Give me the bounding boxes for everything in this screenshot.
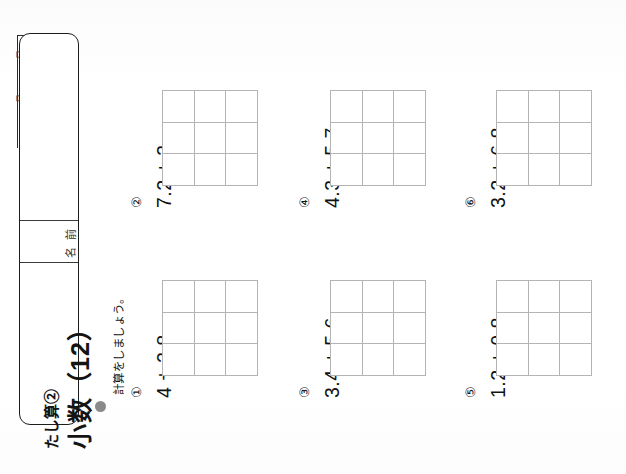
answer-cell[interactable] [363,344,395,376]
answer-grid[interactable] [330,90,426,186]
answer-cell[interactable] [195,91,227,123]
answer-grid[interactable] [496,280,592,376]
answer-cell[interactable] [560,281,592,313]
answer-cell[interactable] [497,281,529,313]
page-title: 小数（12） [68,315,93,449]
name-field-label: 名前 [66,222,77,258]
answer-cell[interactable] [497,344,529,376]
answer-cell[interactable] [394,344,426,376]
answer-cell[interactable] [331,91,363,123]
answer-grid[interactable] [330,280,426,376]
answer-cell[interactable] [497,154,529,186]
answer-cell[interactable] [163,123,195,155]
answer-cell[interactable] [163,154,195,186]
header-title-box: 小数（12） たし算② 名前 [19,33,79,425]
answer-cell[interactable] [331,344,363,376]
answer-cell[interactable] [394,154,426,186]
answer-grid[interactable] [162,90,258,186]
answer-cell[interactable] [394,123,426,155]
answer-cell[interactable] [226,91,258,123]
answer-cell[interactable] [497,91,529,123]
answer-cell[interactable] [195,344,227,376]
answer-cell[interactable] [529,154,561,186]
problem-item: ⑤1.2 + 0.8 [449,272,569,422]
problem-number: ④ [297,196,312,208]
answer-cell[interactable] [363,91,395,123]
problem-number: ③ [297,386,312,398]
answer-cell[interactable] [394,313,426,345]
answer-cell[interactable] [163,344,195,376]
answer-cell[interactable] [226,313,258,345]
answer-cell[interactable] [363,281,395,313]
answer-cell[interactable] [529,313,561,345]
answer-cell[interactable] [195,123,227,155]
answer-cell[interactable] [363,123,395,155]
problem-number: ⑥ [463,196,478,208]
answer-cell[interactable] [226,281,258,313]
answer-cell[interactable] [529,123,561,155]
answer-cell[interactable] [394,91,426,123]
problem-number: ⑤ [463,386,478,398]
answer-cell[interactable] [560,313,592,345]
answer-cell[interactable] [163,313,195,345]
answer-cell[interactable] [331,281,363,313]
answer-cell[interactable] [394,281,426,313]
answer-cell[interactable] [560,91,592,123]
answer-cell[interactable] [363,313,395,345]
worksheet-page: 日 月 小数（12） たし算② 名前 計算をしましょう。 ②7.2 + 3①4 … [0,0,626,474]
header-divider-upper [20,220,78,221]
answer-cell[interactable] [529,344,561,376]
answer-cell[interactable] [331,154,363,186]
problem-item: ①4 + 2.8 [115,272,235,422]
bullet-icon [95,401,106,412]
answer-cell[interactable] [560,344,592,376]
answer-grid[interactable] [162,280,258,376]
answer-cell[interactable] [163,91,195,123]
answer-cell[interactable] [195,281,227,313]
answer-cell[interactable] [497,313,529,345]
answer-cell[interactable] [331,123,363,155]
page-subtitle: たし算② [44,389,59,449]
problem-item: ④4.3 + 5.7 [283,82,403,232]
answer-cell[interactable] [226,344,258,376]
answer-cell[interactable] [560,123,592,155]
answer-cell[interactable] [497,123,529,155]
answer-cell[interactable] [331,313,363,345]
header-divider-lower [20,262,78,263]
answer-cell[interactable] [195,313,227,345]
answer-cell[interactable] [529,91,561,123]
problem-item: ③3.4 + 5.6 [283,272,403,422]
answer-cell[interactable] [363,154,395,186]
answer-cell[interactable] [195,154,227,186]
problem-number: ① [129,386,144,398]
answer-cell[interactable] [529,281,561,313]
answer-cell[interactable] [226,123,258,155]
answer-grid[interactable] [496,90,592,186]
problem-number: ② [129,196,144,208]
answer-cell[interactable] [226,154,258,186]
answer-cell[interactable] [163,281,195,313]
problem-item: ②7.2 + 3 [115,82,235,232]
answer-cell[interactable] [560,154,592,186]
problem-item: ⑥3.2 + 6.8 [449,82,569,232]
